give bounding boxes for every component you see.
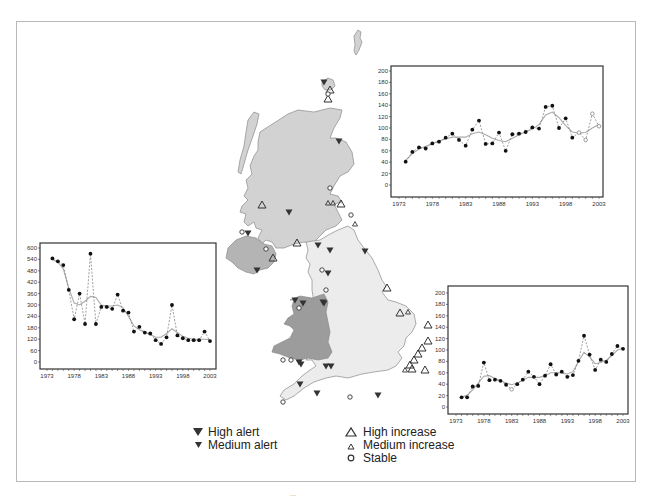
data-point xyxy=(557,126,561,130)
y-tick-label: 600 xyxy=(27,245,38,251)
data-point xyxy=(186,338,190,342)
medium-alert-icon xyxy=(195,442,202,448)
data-point xyxy=(61,263,65,267)
data-point xyxy=(116,293,120,297)
map-shetland xyxy=(354,30,362,55)
y-tick-label: 120 xyxy=(435,336,446,342)
stable-icon xyxy=(264,247,268,251)
stable-icon xyxy=(297,306,301,310)
data-point xyxy=(565,375,569,379)
data-point xyxy=(521,378,525,382)
stable-icon xyxy=(349,213,353,217)
caption-cutoff: ... xyxy=(290,490,296,497)
x-tick-label: 1988 xyxy=(533,418,547,424)
stable-icon xyxy=(328,186,332,190)
data-point xyxy=(554,373,558,377)
data-point xyxy=(83,322,87,326)
stable-icon xyxy=(324,288,328,292)
y-tick-label: 200 xyxy=(378,68,389,74)
x-tick-label: 2003 xyxy=(203,373,217,379)
y-tick-label: 40 xyxy=(438,381,445,387)
y-tick-label: 0 xyxy=(34,359,38,365)
data-point xyxy=(497,131,501,135)
x-tick-label: 1973 xyxy=(40,373,54,379)
chart-plot-area xyxy=(40,243,216,369)
y-tick-label: 160 xyxy=(378,91,389,97)
medium-increase-icon xyxy=(348,444,354,449)
y-tick-label: 240 xyxy=(27,313,38,319)
y-tick-label: 180 xyxy=(27,325,38,331)
legend: High alert Medium alert High increase Me… xyxy=(193,425,455,465)
x-tick-label: 1983 xyxy=(95,373,109,379)
x-tick-label: 1998 xyxy=(588,418,602,424)
x-tick-label: 1978 xyxy=(67,373,81,379)
y-tick-label: 160 xyxy=(435,313,446,319)
data-point xyxy=(530,126,534,130)
y-tick-label: 100 xyxy=(378,125,389,131)
data-point xyxy=(132,330,136,334)
data-point xyxy=(550,104,554,108)
data-point xyxy=(154,338,158,342)
high-alert-icon xyxy=(375,393,382,399)
high-alert-icon xyxy=(193,428,203,436)
x-tick-label: 1993 xyxy=(526,201,540,207)
high-increase-icon xyxy=(418,344,426,351)
medium-increase-icon xyxy=(353,222,358,227)
data-point xyxy=(488,378,492,382)
data-point xyxy=(510,388,514,392)
y-tick-label: 20 xyxy=(381,171,388,177)
data-point xyxy=(543,374,547,378)
data-point xyxy=(148,332,152,336)
data-point xyxy=(137,325,141,329)
data-point xyxy=(588,353,592,357)
data-point xyxy=(484,142,488,146)
data-point xyxy=(127,311,131,315)
data-point xyxy=(537,127,541,131)
data-point xyxy=(490,141,494,145)
x-tick-label: 1998 xyxy=(176,373,190,379)
y-tick-label: 80 xyxy=(381,136,388,142)
legend-item-stable: Stable xyxy=(348,451,397,465)
data-point xyxy=(504,383,508,387)
stable-icon xyxy=(289,358,293,362)
data-point xyxy=(170,303,174,307)
data-point xyxy=(56,259,60,263)
high-increase-icon xyxy=(424,337,432,344)
data-point xyxy=(197,338,201,342)
data-point xyxy=(549,362,553,366)
stable-icon xyxy=(348,455,354,461)
y-tick-label: 60 xyxy=(30,348,37,354)
data-point xyxy=(524,130,528,134)
y-tick-label: 480 xyxy=(27,268,38,274)
chart-top-right: 0204060801001201401601802001973197819831… xyxy=(378,66,606,207)
x-tick-label: 1973 xyxy=(449,418,463,424)
stable-icon xyxy=(281,400,285,404)
y-tick-label: 60 xyxy=(381,148,388,154)
y-tick-label: 0 xyxy=(442,404,446,410)
map-northern-ireland xyxy=(226,236,276,274)
data-point xyxy=(584,138,588,142)
stable-icon xyxy=(281,358,285,362)
stable-icon xyxy=(348,395,352,399)
chart-bottom-right: 0204060801001201401601802001973197819831… xyxy=(435,286,630,424)
data-point xyxy=(593,368,597,372)
data-point xyxy=(582,334,586,338)
data-point xyxy=(51,257,55,261)
x-tick-label: 1988 xyxy=(492,201,506,207)
data-point xyxy=(577,131,581,135)
x-tick-label: 1973 xyxy=(392,201,406,207)
chart-plot-area xyxy=(448,286,628,414)
data-point xyxy=(165,335,169,339)
data-point xyxy=(471,385,475,389)
data-point xyxy=(610,352,614,356)
data-point xyxy=(105,305,109,309)
data-point xyxy=(159,342,163,346)
data-point xyxy=(437,140,441,144)
data-point xyxy=(616,344,620,348)
data-point xyxy=(591,112,595,116)
data-point xyxy=(450,132,454,136)
data-point xyxy=(404,160,408,164)
data-point xyxy=(430,141,434,145)
x-tick-label: 1983 xyxy=(459,201,473,207)
data-point xyxy=(544,105,548,109)
